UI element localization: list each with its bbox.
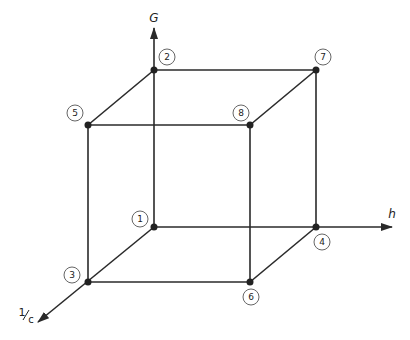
vertex-label-4: 4 [314, 234, 330, 250]
svg-text:6: 6 [248, 292, 254, 302]
vertex-label-1: 1 [132, 211, 148, 227]
svg-text:1: 1 [137, 214, 143, 224]
svg-text:5: 5 [72, 108, 78, 118]
cube-diagram: G h 1 c [0, 0, 410, 340]
vertex-3 [85, 279, 92, 286]
vertex-label-6: 6 [243, 289, 259, 305]
vertex-4 [313, 224, 320, 231]
edge-7-8 [250, 70, 316, 125]
svg-text:3: 3 [69, 270, 75, 280]
svg-text:8: 8 [238, 108, 244, 118]
svg-text:2: 2 [164, 52, 170, 62]
h-axis-label: h [388, 207, 396, 221]
vertex-7 [313, 67, 320, 74]
svg-text:7: 7 [320, 52, 326, 62]
vertex-label-3: 3 [64, 267, 80, 283]
vertex-6 [247, 279, 254, 286]
g-axis-label: G [149, 11, 158, 25]
vertex-5 [85, 122, 92, 129]
vertex-label-7: 7 [315, 49, 331, 65]
inv-c-axis-label: 1 c [19, 306, 34, 325]
edge-4-6 [250, 227, 316, 282]
svg-text:c: c [28, 314, 34, 325]
cube-edges [88, 70, 316, 282]
vertex-1 [151, 224, 158, 231]
vertex-label-2: 2 [159, 49, 175, 65]
vertex-label-8: 8 [233, 105, 249, 121]
vertex-label-5: 5 [67, 105, 83, 121]
edge-2-5 [88, 70, 154, 125]
svg-text:4: 4 [319, 237, 325, 247]
vertex-2 [151, 67, 158, 74]
inv-c-axis [38, 227, 154, 322]
vertex-8 [247, 122, 254, 129]
